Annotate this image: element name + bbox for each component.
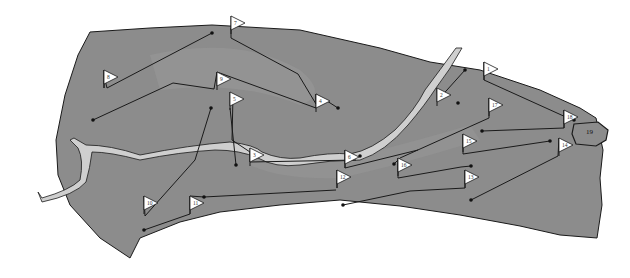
tee-marker xyxy=(142,228,146,232)
flag-number: 7 xyxy=(234,20,237,26)
flag-number: 8 xyxy=(107,74,110,80)
flag-number: 5 xyxy=(233,96,236,102)
flag-number: 2 xyxy=(440,92,443,98)
tee-marker xyxy=(341,203,345,207)
flag-number: 11 xyxy=(193,200,199,206)
tee-marker xyxy=(548,139,552,143)
tee-marker xyxy=(480,129,484,133)
flag-number: 14 xyxy=(562,142,568,148)
flag-number: 6 xyxy=(348,154,351,160)
tee-marker xyxy=(392,162,396,166)
flag-number: 17 xyxy=(492,102,498,108)
tee-marker xyxy=(469,198,473,202)
tee-marker xyxy=(209,106,213,110)
golf-course-map: 19 123456789101112131415161718 xyxy=(0,0,630,278)
tee-marker xyxy=(91,118,95,122)
flag-number: 3 xyxy=(253,152,256,158)
flag-number: 15 xyxy=(466,138,472,144)
tee-marker xyxy=(456,101,460,105)
flag-number: 4 xyxy=(319,98,322,104)
flag-number: 12 xyxy=(340,174,346,180)
flag-number: 10 xyxy=(147,200,153,206)
tee-marker xyxy=(234,163,238,167)
flag-number: 16 xyxy=(401,162,407,168)
tee-marker xyxy=(202,195,206,199)
tee-marker xyxy=(336,106,340,110)
flag-number: 13 xyxy=(468,174,474,180)
flag-number: 9 xyxy=(220,76,223,82)
flag-number: 1 xyxy=(487,66,490,72)
flag-number: 18 xyxy=(567,114,573,120)
tee-marker xyxy=(210,31,214,35)
tee-marker xyxy=(463,68,467,72)
course-terrain xyxy=(56,25,603,258)
tee-marker xyxy=(469,164,473,168)
green-19-label: 19 xyxy=(586,128,594,136)
